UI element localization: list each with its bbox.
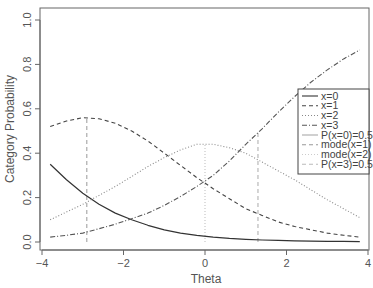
x-axis-title: Theta (191, 272, 222, 286)
y-tick-label: 0.8 (21, 57, 33, 72)
y-tick-label: 0.0 (21, 234, 33, 249)
x-tick-label: 0 (202, 257, 208, 269)
y-tick-label: 0.6 (21, 101, 33, 116)
reference-lines (87, 118, 258, 242)
x-tick-label: 4 (365, 257, 371, 269)
y-axis: 0.00.20.40.60.81.0 (21, 12, 40, 249)
x-tick-label: −2 (117, 257, 130, 269)
y-tick-label: 1.0 (21, 12, 33, 27)
y-tick-label: 0.2 (21, 190, 33, 205)
legend: x=0x=1x=2x=3P(x=0)=0.5mode(x=1)mode(x=2)… (298, 89, 373, 174)
y-tick-label: 0.4 (21, 146, 33, 161)
x-axis: −4−2024 (36, 250, 371, 269)
legend-label: P(x=3)=0.5 (321, 158, 373, 170)
x-tick-label: −4 (36, 257, 49, 269)
y-axis-title: Category Probability (3, 75, 17, 183)
category-probability-chart: 0.00.20.40.60.81.0 −4−2024 Theta Categor… (0, 0, 373, 288)
x-tick-label: 2 (283, 257, 289, 269)
